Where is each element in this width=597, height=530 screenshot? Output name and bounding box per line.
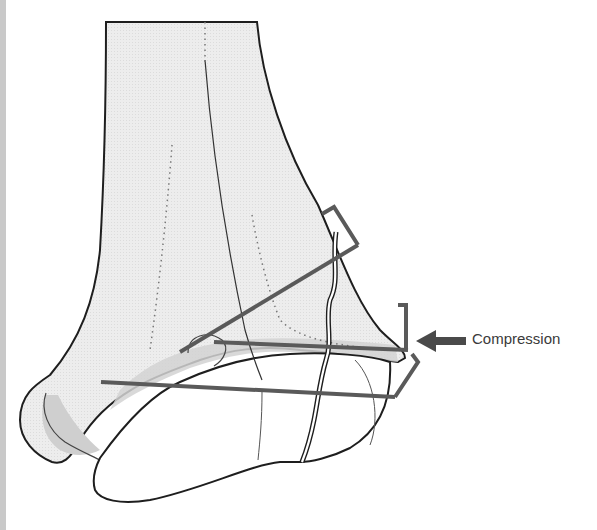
ankle-fracture-diagram <box>0 0 597 530</box>
bracket-middle <box>398 305 406 350</box>
compression-label: Compression <box>472 330 560 347</box>
compression-arrow <box>416 330 466 352</box>
